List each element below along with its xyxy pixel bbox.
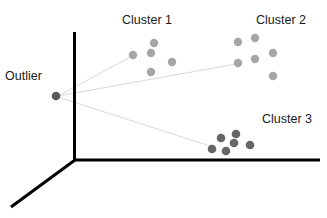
link-outlier-cluster2 — [58, 64, 236, 96]
cluster-outlier-diagram: Outlier Cluster 1 Cluster 2 Cluster 3 — [0, 0, 327, 218]
link-outlier-cluster3 — [58, 97, 210, 146]
cluster2-point — [234, 59, 242, 67]
outlier-label: Outlier — [5, 69, 42, 83]
cluster3-point — [217, 134, 226, 143]
cluster3-point — [208, 145, 217, 154]
cluster3-point — [230, 139, 239, 148]
depth-axis — [11, 160, 75, 207]
cluster1-point — [147, 68, 155, 76]
cluster1-point — [147, 49, 155, 57]
link-outlier-cluster1 — [58, 56, 132, 96]
cluster2-point — [269, 49, 277, 57]
cluster2-group — [234, 34, 277, 80]
cluster1-point — [150, 39, 158, 47]
cluster3-point — [232, 130, 241, 139]
cluster3-group — [208, 130, 255, 156]
cluster1-point — [129, 51, 137, 59]
cluster2-label: Cluster 2 — [256, 13, 306, 27]
cluster2-point — [234, 38, 242, 46]
cluster3-point — [222, 147, 231, 156]
cluster3-label: Cluster 3 — [262, 112, 312, 126]
outlier-group — [52, 92, 61, 101]
cluster2-point — [251, 55, 259, 63]
cluster1-point — [168, 58, 176, 66]
cluster1-group — [129, 39, 176, 76]
labels: Outlier Cluster 1 Cluster 2 Cluster 3 — [5, 13, 312, 126]
cluster2-point — [269, 72, 277, 80]
cluster3-point — [246, 141, 255, 150]
cluster1-label: Cluster 1 — [122, 13, 172, 27]
cluster2-point — [251, 34, 259, 42]
outlier-point — [52, 92, 61, 101]
links — [58, 56, 236, 146]
